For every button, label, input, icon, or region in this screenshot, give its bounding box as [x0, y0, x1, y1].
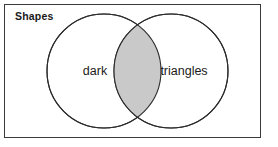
venn-label-left: dark: [83, 64, 108, 78]
venn-diagram-canvas: Shapes dark triangles: [0, 0, 278, 147]
venn-diagram-figure: Shapes dark triangles: [0, 0, 278, 147]
venn-label-right: triangles: [160, 64, 207, 78]
figure-title: Shapes: [15, 10, 54, 22]
